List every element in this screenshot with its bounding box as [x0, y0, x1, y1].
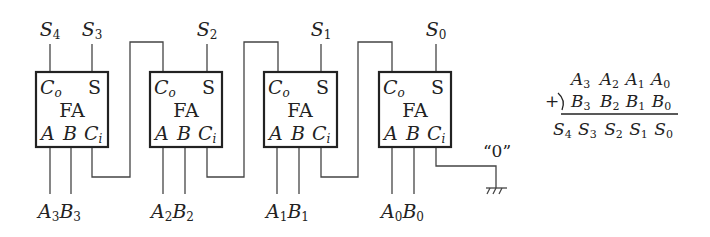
plus-operator: +	[545, 91, 559, 111]
equation-row-sum: S4 S3 S2 S1 S0	[553, 119, 673, 142]
svg-text:B: B	[176, 122, 191, 144]
svg-text:FA: FA	[59, 99, 85, 121]
label-s2: S2	[197, 18, 218, 42]
equation-row-b: B3 B2 B1 B0	[570, 91, 671, 114]
svg-text:S: S	[202, 76, 215, 98]
label-a0b0: A0B0	[379, 200, 424, 224]
carry-in-zero-label: “0”	[483, 141, 511, 161]
label-s3: S3	[82, 18, 103, 42]
svg-text:A: A	[39, 122, 55, 144]
label-a1b1: A1B1	[264, 200, 309, 224]
svg-text:FA: FA	[287, 99, 313, 121]
svg-text:B: B	[405, 122, 420, 144]
svg-text:S: S	[316, 76, 329, 98]
svg-text:A: A	[153, 122, 169, 144]
label-s0: S0	[426, 18, 447, 42]
label-a3b3: A3B3	[36, 200, 81, 224]
addition-equation: A3 A2 A1 A0 + B3 B2 B1 B0 S4 S3 S2 S1 S0	[545, 69, 678, 142]
svg-text:FA: FA	[173, 99, 199, 121]
svg-text:B: B	[62, 122, 77, 144]
equation-row-a: A3 A2 A1 A0	[569, 69, 670, 92]
ground-icon	[486, 188, 507, 194]
svg-text:A: A	[382, 122, 398, 144]
svg-text:B: B	[290, 122, 305, 144]
label-s1: S1	[311, 18, 332, 42]
label-s4: S4	[40, 18, 61, 42]
svg-text:FA: FA	[402, 99, 428, 121]
svg-text:A: A	[267, 122, 283, 144]
label-a2b2: A2B2	[149, 200, 194, 224]
ripple-carry-adder-diagram: Co S FA A B Ci Co S FA A B Ci Co S FA A …	[0, 0, 710, 237]
svg-text:S: S	[431, 76, 444, 98]
svg-text:S: S	[88, 76, 101, 98]
